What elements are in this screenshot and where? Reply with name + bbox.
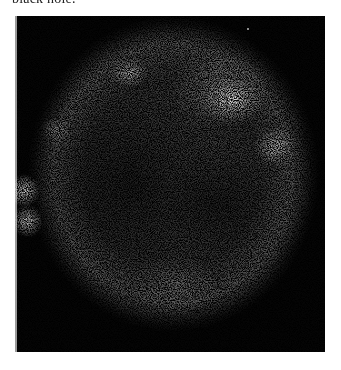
noise-texture bbox=[15, 16, 325, 352]
caption-fragment: black hole. bbox=[12, 0, 76, 7]
image-edge-artifact bbox=[15, 16, 17, 352]
supernova-remnant-image bbox=[15, 16, 325, 352]
noise-speck bbox=[247, 28, 249, 30]
